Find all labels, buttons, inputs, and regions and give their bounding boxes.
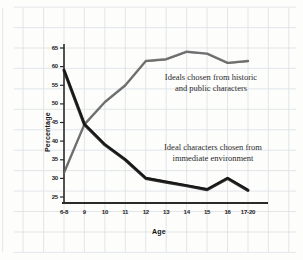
x-tick-label-17-20: 17-20 (235, 209, 261, 215)
annotation-historic-public-characters: Ideals chosen from historic and public c… (137, 72, 285, 93)
y-tick-label-30: 30 (40, 175, 58, 181)
x-axis-title: Age (152, 228, 166, 235)
y-tick-label-55: 55 (40, 82, 58, 88)
y-tick-label-65: 65 (40, 45, 58, 51)
y-tick-label-25: 25 (40, 194, 58, 200)
y-axis-title: Percentage (44, 112, 51, 152)
y-tick-label-35: 35 (40, 156, 58, 162)
annotation-immediate-environment: Ideal characters chosen from immediate e… (137, 142, 289, 163)
chart-screenshot: 253035404550556065 6-891011121314151617-… (0, 0, 303, 260)
y-tick-label-50: 50 (40, 100, 58, 106)
y-tick-label-60: 60 (40, 63, 58, 69)
